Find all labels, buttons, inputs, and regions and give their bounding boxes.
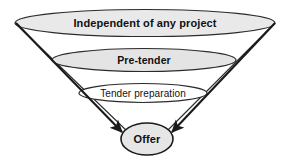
stage-label-offer: Offer bbox=[134, 133, 161, 145]
arrow-right bbox=[172, 23, 275, 132]
stage-label-tender-preparation: Tender preparation bbox=[100, 88, 186, 99]
funnel-cone-walls bbox=[15, 23, 275, 132]
stage-label-pre-tender: Pre-tender bbox=[117, 54, 171, 66]
funnel-arrows bbox=[16, 23, 275, 132]
funnel-diagram: Independent of any project Pre-tender Te… bbox=[0, 0, 286, 162]
arrow-left bbox=[16, 23, 122, 132]
stage-label-independent: Independent of any project bbox=[73, 17, 216, 29]
